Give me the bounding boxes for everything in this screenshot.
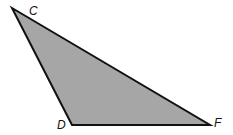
triangle-diagram: C D F	[0, 0, 233, 135]
triangle-cdf	[12, 8, 210, 125]
vertex-label-d: D	[57, 118, 66, 132]
vertex-label-c: C	[29, 4, 38, 18]
vertex-label-f: F	[214, 116, 222, 130]
